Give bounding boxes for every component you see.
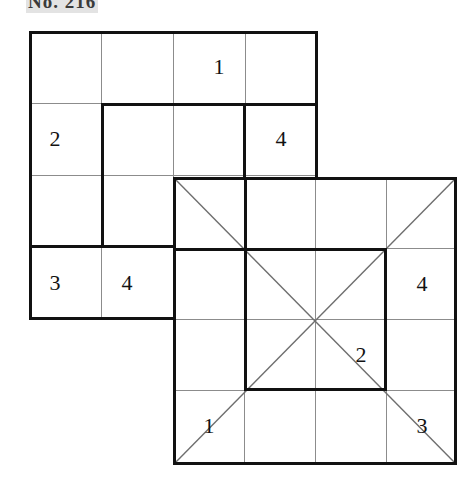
region-edge-segment (173, 248, 246, 251)
region-edge-segment (29, 245, 103, 248)
puzzle-number-label: No. 216 (26, 0, 98, 13)
region-edge-segment (244, 177, 247, 250)
grid-line-vertical (101, 31, 102, 320)
region-edge-segment (245, 103, 318, 106)
clue-cell: 2 (29, 103, 101, 175)
puzzle-figure-page: No. 216 1 2 4 3 3 4 (0, 0, 473, 483)
clue-cell: 1 (173, 31, 245, 103)
clue-cell: 4 (101, 247, 173, 319)
diagonal-lines-group (173, 177, 457, 465)
clue-cell: 4 (245, 103, 317, 175)
clue-cell: 3 (29, 247, 101, 319)
lower-right-grid: 4 2 1 3 (173, 177, 457, 465)
